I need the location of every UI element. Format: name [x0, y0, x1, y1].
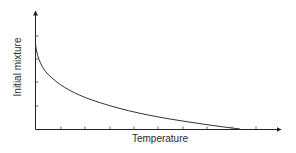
y-axis-label: Initial mixture: [12, 38, 23, 97]
data-curve: [36, 44, 241, 129]
chart-canvas: [0, 0, 296, 153]
x-axis-label: Temperature: [132, 133, 188, 144]
